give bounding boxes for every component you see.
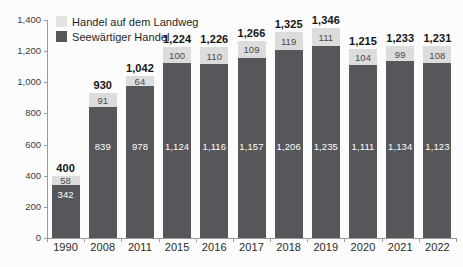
bar-segment-overland: 108 bbox=[423, 46, 451, 63]
bar-column: 1,2351111,346 bbox=[312, 20, 340, 238]
x-tick-mark bbox=[196, 238, 197, 242]
bar-total-label: 400 bbox=[44, 162, 88, 174]
bar-segment-overland: 119 bbox=[275, 32, 303, 51]
y-axis-tick-labels: 02004006008001,0001,2001,400 bbox=[0, 0, 47, 239]
y-tick-label: 0 bbox=[0, 233, 41, 243]
bar-column: 1,1571091,266 bbox=[238, 20, 266, 238]
x-tick-label: 2019 bbox=[307, 241, 344, 253]
y-tick-label: 1,000 bbox=[0, 77, 41, 87]
bar-total-label: 1,346 bbox=[304, 14, 348, 26]
bar-segment-seaborne: 1,235 bbox=[312, 46, 340, 238]
bar-column: 1,1231081,231 bbox=[423, 20, 451, 238]
x-tick-mark bbox=[382, 238, 383, 242]
legend-label: Seewärtiger Handel bbox=[72, 31, 170, 43]
bar-segment-seaborne: 1,116 bbox=[200, 64, 228, 238]
bar-segment-label-seaborne: 1,124 bbox=[163, 141, 191, 152]
bar-segment-seaborne: 1,206 bbox=[275, 50, 303, 238]
x-tick-label: 2016 bbox=[196, 241, 233, 253]
bar-segment-label-seaborne: 1,134 bbox=[386, 141, 414, 152]
bar-segment-seaborne: 1,123 bbox=[423, 63, 451, 238]
x-tick-label: 2011 bbox=[121, 241, 158, 253]
bar-segment-seaborne: 1,134 bbox=[386, 61, 414, 238]
bar-segment-label-seaborne: 1,235 bbox=[312, 141, 340, 152]
bar-total-label: 1,231 bbox=[415, 32, 459, 44]
y-tick-mark bbox=[44, 82, 48, 83]
x-tick-label: 2020 bbox=[344, 241, 381, 253]
y-tick-mark bbox=[44, 51, 48, 52]
legend-swatch-sea-icon bbox=[56, 31, 67, 42]
bar-segment-label-overland: 119 bbox=[275, 35, 303, 46]
bar-segment-label-overland: 91 bbox=[89, 95, 117, 106]
y-tick-mark bbox=[44, 20, 48, 21]
x-tick-label: 2017 bbox=[233, 241, 270, 253]
bar-segment-seaborne: 1,157 bbox=[238, 58, 266, 238]
y-tick-label: 200 bbox=[0, 202, 41, 212]
bar-segment-label-overland: 58 bbox=[52, 175, 80, 186]
x-tick-mark bbox=[419, 238, 420, 242]
bar-segment-label-seaborne: 1,123 bbox=[423, 141, 451, 152]
y-tick-mark bbox=[44, 145, 48, 146]
bar-segment-label-overland: 100 bbox=[163, 50, 191, 61]
bar-column: 34258400 bbox=[52, 20, 80, 238]
x-tick-mark bbox=[344, 238, 345, 242]
bar-segment-label-seaborne: 1,111 bbox=[349, 141, 377, 152]
x-tick-mark bbox=[47, 238, 48, 242]
bar-column: 1,2061191,325 bbox=[275, 20, 303, 238]
bar-series-container: 3425840083991930978641,0421,1241001,2241… bbox=[47, 20, 456, 238]
bar-column: 83991930 bbox=[89, 20, 117, 238]
bar-column: 1,1111041,215 bbox=[349, 20, 377, 238]
x-axis-tick-labels: 1990200820112015201620172018201920202021… bbox=[47, 241, 456, 261]
bar-segment-seaborne: 1,111 bbox=[349, 65, 377, 238]
y-tick-label: 400 bbox=[0, 171, 41, 181]
legend-swatch-land-icon bbox=[56, 16, 67, 27]
x-tick-mark bbox=[233, 238, 234, 242]
bar-segment-label-seaborne: 978 bbox=[126, 141, 154, 152]
y-tick-mark bbox=[44, 113, 48, 114]
x-tick-label: 2021 bbox=[382, 241, 419, 253]
bar-segment-label-overland: 104 bbox=[349, 51, 377, 62]
bar-segment-overland: 111 bbox=[312, 28, 340, 45]
bar-segment-overland: 64 bbox=[126, 76, 154, 86]
bar-segment-label-overland: 99 bbox=[386, 48, 414, 59]
y-tick-label: 600 bbox=[0, 140, 41, 150]
x-tick-mark bbox=[121, 238, 122, 242]
bar-segment-label-overland: 110 bbox=[200, 50, 228, 61]
bar-column: 1,134991,233 bbox=[386, 20, 414, 238]
bar-segment-label-overland: 109 bbox=[238, 44, 266, 55]
bar-segment-label-seaborne: 1,116 bbox=[200, 141, 228, 152]
bar-segment-seaborne: 1,124 bbox=[163, 63, 191, 238]
bar-total-label: 930 bbox=[81, 79, 125, 91]
bar-segment-overland: 58 bbox=[52, 176, 80, 185]
bar-column: 1,1161101,226 bbox=[200, 20, 228, 238]
legend-item-land[interactable]: Handel auf dem Landweg bbox=[56, 15, 198, 28]
bar-column: 1,1241001,224 bbox=[163, 20, 191, 238]
bar-segment-label-seaborne: 1,206 bbox=[275, 141, 303, 152]
y-tick-mark bbox=[44, 176, 48, 177]
bar-segment-label-overland: 64 bbox=[126, 75, 154, 86]
x-tick-mark bbox=[307, 238, 308, 242]
bar-segment-overland: 100 bbox=[163, 47, 191, 63]
x-tick-mark bbox=[84, 238, 85, 242]
x-tick-mark bbox=[159, 238, 160, 242]
x-tick-label: 2018 bbox=[270, 241, 307, 253]
bar-segment-overland: 91 bbox=[89, 93, 117, 107]
bar-segment-label-overland: 108 bbox=[423, 49, 451, 60]
bar-segment-seaborne: 839 bbox=[89, 107, 117, 238]
y-tick-mark bbox=[44, 207, 48, 208]
stacked-bar-chart: 02004006008001,0001,2001,400 34258400839… bbox=[0, 0, 463, 267]
x-tick-label: 2008 bbox=[84, 241, 121, 253]
x-tick-mark bbox=[456, 238, 457, 242]
bar-total-label: 1,042 bbox=[118, 62, 162, 74]
bar-segment-overland: 110 bbox=[200, 47, 228, 64]
legend-item-sea[interactable]: Seewärtiger Handel bbox=[56, 30, 198, 43]
y-tick-label: 800 bbox=[0, 108, 41, 118]
x-tick-label: 1990 bbox=[47, 241, 84, 253]
bar-segment-label-overland: 111 bbox=[312, 32, 340, 43]
x-axis-line bbox=[47, 238, 456, 239]
bar-segment-label-seaborne: 342 bbox=[52, 189, 80, 200]
bar-segment-overland: 99 bbox=[386, 46, 414, 61]
legend-label: Handel auf dem Landweg bbox=[72, 16, 198, 28]
y-tick-label: 1,400 bbox=[0, 15, 41, 25]
bar-segment-overland: 104 bbox=[349, 49, 377, 65]
x-tick-label: 2015 bbox=[159, 241, 196, 253]
